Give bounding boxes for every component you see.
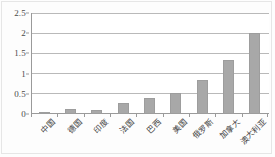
x-tick-label: 加拿大: [219, 118, 242, 141]
x-axis-labels: 中国德国印度法国巴西美国俄罗斯加拿大澳大利亚: [31, 118, 269, 156]
bars-layer: [31, 13, 269, 114]
x-tick-label: 美国: [172, 118, 189, 135]
bar-chart: 00.511.522.5 中国德国印度法国巴西美国俄罗斯加拿大澳大利亚: [0, 0, 275, 157]
x-tick-label: 俄罗斯: [192, 118, 215, 141]
x-tick-mark: [136, 114, 137, 117]
y-axis: 00.511.522.5: [0, 13, 29, 114]
bar: [197, 80, 208, 114]
x-tick-mark: [163, 114, 164, 117]
y-tick-mark: [26, 53, 29, 54]
y-tick-mark: [26, 93, 29, 94]
y-tick-label: 2.5: [14, 9, 26, 18]
x-tick-mark: [215, 114, 216, 117]
x-tick-label: 中国: [40, 118, 57, 135]
y-tick-mark: [26, 73, 29, 74]
x-tick-label: 法国: [119, 118, 136, 135]
bar: [118, 103, 129, 114]
x-tick-label: 澳大利亚: [239, 118, 267, 146]
x-tick-mark: [57, 114, 58, 117]
y-tick-label: 0.5: [14, 89, 26, 98]
x-tick-mark: [267, 114, 268, 117]
bar: [144, 98, 155, 114]
bar: [170, 93, 181, 114]
x-tick-mark: [189, 114, 190, 117]
bar: [223, 60, 234, 114]
x-tick-mark: [110, 114, 111, 117]
x-tick-mark: [84, 114, 85, 117]
x-tick-mark: [31, 114, 32, 117]
x-tick-label: 巴西: [145, 118, 162, 135]
bar: [249, 33, 260, 114]
x-tick-mark: [242, 114, 243, 117]
y-tick-mark: [26, 114, 29, 115]
x-tick-label: 德国: [66, 118, 83, 135]
y-tick-mark: [26, 33, 29, 34]
y-tick-label: 1.5: [14, 49, 26, 58]
y-tick-mark: [26, 13, 29, 14]
x-tick-label: 印度: [93, 118, 110, 135]
